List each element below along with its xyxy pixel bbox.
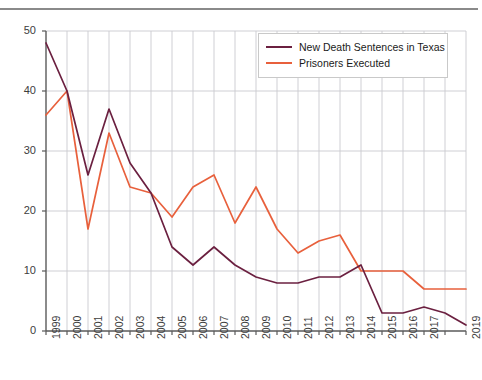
x-axis-tick-label: 2010 bbox=[282, 316, 293, 339]
x-axis-tick-label: 2009 bbox=[261, 316, 272, 339]
y-axis-tick-label: 10 bbox=[10, 265, 36, 276]
x-axis-tick-label: 2012 bbox=[324, 316, 335, 339]
x-axis-tick-label: 2006 bbox=[198, 316, 209, 339]
y-axis-tick-label: 50 bbox=[10, 25, 36, 36]
y-axis-tick-label: 20 bbox=[10, 205, 36, 216]
legend-swatch-icon-death-sentences bbox=[266, 46, 292, 48]
x-axis-tick-label: 2013 bbox=[345, 316, 356, 339]
x-axis-tick-label: 2019 bbox=[471, 316, 482, 339]
x-axis-tick-label: 2000 bbox=[72, 316, 83, 339]
y-axis-tick-label: 30 bbox=[10, 145, 36, 156]
legend-swatch-icon-executions bbox=[266, 62, 292, 64]
chart-legend: New Death Sentences in Texas Prisoners E… bbox=[258, 33, 448, 78]
x-axis-tick-label: 2011 bbox=[303, 316, 314, 339]
legend-label-executions: Prisoners Executed bbox=[299, 55, 390, 71]
x-axis-tick-label: 2004 bbox=[156, 316, 167, 339]
x-axis-tick-label: 1999 bbox=[51, 316, 62, 339]
x-axis-tick-label: 2015 bbox=[387, 316, 398, 339]
x-axis-tick-label: 2014 bbox=[366, 316, 377, 339]
legend-label-death-sentences: New Death Sentences in Texas bbox=[299, 39, 445, 55]
x-axis-tick-label: 2003 bbox=[135, 316, 146, 339]
y-axis-tick-label: 40 bbox=[10, 85, 36, 96]
legend-item-prisoners-executed: Prisoners Executed bbox=[266, 55, 440, 71]
x-axis-tick-label: 2002 bbox=[114, 316, 125, 339]
x-axis-tick-label: 2008 bbox=[240, 316, 251, 339]
x-axis-tick-label: 2001 bbox=[93, 316, 104, 339]
x-axis-tick-label: 2017 bbox=[429, 316, 440, 339]
x-axis-tick-label: 2007 bbox=[219, 316, 230, 339]
y-axis-tick-label: 0 bbox=[10, 325, 36, 336]
x-axis-tick-label: 2016 bbox=[408, 316, 419, 339]
x-axis-tick-label: 2005 bbox=[177, 316, 188, 339]
legend-item-new-death-sentences: New Death Sentences in Texas bbox=[266, 39, 440, 55]
